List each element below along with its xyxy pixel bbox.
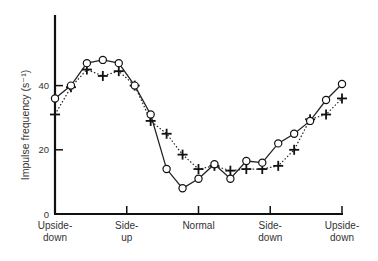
series-line-dotted <box>55 70 342 171</box>
circle-marker <box>163 165 170 172</box>
circle-marker <box>259 159 266 166</box>
x-tick-label: Normal <box>182 220 214 231</box>
circle-marker <box>131 82 138 89</box>
cross-marker <box>194 164 204 174</box>
y-tick-label: 0 <box>44 209 49 220</box>
cross-marker <box>289 145 299 155</box>
circle-marker <box>275 140 282 147</box>
circle-marker <box>322 96 329 103</box>
y-axis-title: Impulse frequency (s⁻¹) <box>19 70 31 180</box>
x-tick-label: down <box>43 232 67 243</box>
circle-marker <box>338 80 345 87</box>
circle-marker <box>115 60 122 67</box>
x-tick-label: down <box>258 232 282 243</box>
circle-marker <box>291 130 298 137</box>
circle-marker <box>179 185 186 192</box>
y-axis-label: Impulse frequency (s⁻¹) <box>19 70 31 180</box>
circle-marker <box>67 82 74 89</box>
circle-marker <box>51 95 58 102</box>
circle-marker <box>243 157 250 164</box>
cross-marker <box>321 109 331 119</box>
y-tick-label: 40 <box>38 80 49 91</box>
cross-marker <box>98 71 108 81</box>
data-series <box>50 56 347 192</box>
x-tick-label: Upside- <box>325 220 359 231</box>
cross-marker <box>273 161 283 171</box>
x-tick-label: down <box>330 232 354 243</box>
chart: Impulse frequency (s⁻¹) 02040 Upside-dow… <box>0 0 378 261</box>
x-tick-label: Upside- <box>38 220 72 231</box>
axes <box>54 15 343 214</box>
circle-marker <box>211 161 218 168</box>
x-ticks: Upside-downSide-upNormalSide-downUpside-… <box>38 206 359 243</box>
y-tick-label: 20 <box>38 144 49 155</box>
circle-marker <box>307 117 314 124</box>
x-tick-label: Side- <box>115 220 138 231</box>
cross-marker <box>50 109 60 119</box>
circle-marker <box>195 175 202 182</box>
circle-marker <box>147 111 154 118</box>
y-ticks: 02040 <box>38 80 63 219</box>
cross-marker <box>178 150 188 160</box>
cross-marker <box>337 93 347 103</box>
x-tick-label: Side- <box>259 220 282 231</box>
circle-marker <box>83 60 90 67</box>
x-tick-label: up <box>121 232 133 243</box>
circle-marker <box>99 56 106 63</box>
circle-marker <box>227 175 234 182</box>
